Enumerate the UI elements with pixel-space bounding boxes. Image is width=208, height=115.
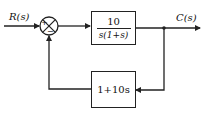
feedback-transfer-block: 1+10s [91,71,136,108]
feedback-transfer-function: 1+10s [97,84,130,95]
fraction-bar [97,28,131,29]
forward-denominator: s(1+s) [99,30,129,41]
plus-sign: + [41,18,48,27]
forward-numerator: 10 [107,16,120,27]
feedback-path-out [49,36,91,89]
output-label: C(s) [176,12,197,23]
feedback-path-in [136,28,164,90]
input-label: R(s) [9,11,29,22]
minus-sign: − [47,27,54,36]
forward-transfer-block: 10 s(1+s) [91,11,136,45]
